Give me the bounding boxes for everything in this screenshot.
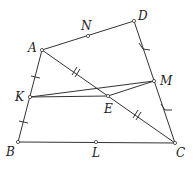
label-C: C	[176, 146, 185, 160]
point-N	[86, 34, 89, 37]
label-A: A	[27, 41, 37, 55]
tick-DM	[139, 43, 150, 50]
point-C	[173, 141, 176, 144]
point-E	[106, 94, 109, 97]
label-K: K	[14, 90, 25, 104]
geometry-diagram: A D N M K E B L C	[0, 0, 195, 175]
point-K	[28, 95, 31, 98]
point-D	[132, 19, 135, 22]
label-E: E	[103, 102, 113, 116]
label-L: L	[91, 146, 100, 160]
label-N: N	[80, 19, 92, 33]
point-A	[40, 48, 43, 51]
point-L	[94, 140, 97, 143]
segment-KM	[30, 81, 154, 97]
label-M: M	[159, 74, 173, 88]
segment-KE	[30, 96, 108, 97]
segment-EM	[108, 81, 154, 96]
label-B: B	[5, 145, 15, 159]
point-B	[16, 140, 19, 143]
label-D: D	[137, 9, 148, 23]
point-M	[152, 79, 155, 82]
